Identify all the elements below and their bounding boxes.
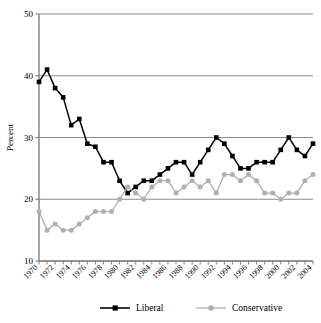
x-tick-label-1996: 1996	[231, 263, 249, 281]
datapoint-liberal-1990	[198, 160, 203, 165]
x-tick-label-1998: 1998	[247, 263, 265, 281]
datapoint-liberal-1972	[53, 86, 58, 91]
datapoint-liberal-1976	[85, 141, 90, 146]
x-tick-label-1978: 1978	[86, 263, 104, 281]
datapoint-conservative-1970	[37, 209, 42, 214]
series-line-liberal	[39, 70, 313, 194]
datapoint-liberal-1986	[166, 166, 171, 171]
datapoint-conservative-1991	[206, 178, 211, 183]
datapoint-liberal-1978	[101, 160, 106, 165]
datapoint-liberal-1985	[158, 172, 163, 177]
datapoint-conservative-1995	[238, 178, 243, 183]
x-tick-label-1992: 1992	[199, 263, 217, 281]
datapoint-liberal-1989	[190, 172, 195, 177]
datapoint-conservative-1983	[141, 197, 146, 202]
datapoint-conservative-1971	[45, 228, 50, 233]
legend-label-liberal: Liberal	[136, 303, 164, 313]
datapoint-liberal-1971	[45, 67, 50, 72]
datapoint-conservative-1974	[69, 228, 74, 233]
datapoint-conservative-2001	[286, 191, 291, 196]
datapoint-conservative-1992	[214, 191, 219, 196]
x-tick-label-2004: 2004	[296, 263, 314, 281]
datapoint-conservative-1999	[270, 191, 275, 196]
datapoint-liberal-1974	[69, 123, 74, 128]
datapoint-conservative-1993	[222, 172, 227, 177]
datapoint-liberal-1987	[174, 160, 179, 165]
datapoint-liberal-1980	[117, 178, 122, 183]
datapoint-liberal-1984	[150, 178, 155, 183]
x-tick-label-1976: 1976	[70, 263, 88, 281]
y-tick-label-40: 40	[24, 71, 34, 81]
y-tick-label-30: 30	[24, 133, 34, 143]
datapoint-liberal-2000	[278, 148, 283, 153]
datapoint-conservative-1985	[157, 178, 162, 183]
datapoint-liberal-1970	[37, 80, 42, 85]
x-tick-label-1974: 1974	[54, 263, 72, 281]
datapoint-conservative-1996	[246, 172, 251, 177]
datapoint-liberal-1997	[254, 160, 259, 165]
chart-figure: 1020304050Percent19701972197419761978198…	[0, 0, 321, 323]
datapoint-liberal-1982	[133, 185, 138, 190]
datapoint-conservative-2003	[302, 178, 307, 183]
datapoint-conservative-1978	[101, 209, 106, 214]
datapoint-conservative-1979	[109, 209, 114, 214]
datapoint-liberal-1983	[141, 178, 146, 183]
line-chart: 1020304050Percent19701972197419761978198…	[0, 0, 321, 323]
datapoint-conservative-1981	[125, 184, 130, 189]
y-tick-label-20: 20	[24, 194, 34, 204]
datapoint-conservative-1975	[77, 221, 82, 226]
x-tick-label-1988: 1988	[167, 263, 185, 281]
datapoint-conservative-1972	[53, 221, 58, 226]
datapoint-liberal-1998	[262, 160, 267, 165]
datapoint-liberal-1973	[61, 95, 66, 100]
datapoint-liberal-1981	[125, 191, 130, 196]
datapoint-conservative-1998	[262, 191, 267, 196]
datapoint-conservative-1982	[133, 191, 138, 196]
x-tick-label-1980: 1980	[102, 263, 120, 281]
datapoint-liberal-2003	[303, 154, 308, 159]
datapoint-conservative-2002	[294, 191, 299, 196]
datapoint-conservative-1990	[198, 184, 203, 189]
x-tick-label-1982: 1982	[118, 263, 136, 281]
datapoint-liberal-1992	[214, 135, 219, 140]
datapoint-conservative-1977	[93, 209, 98, 214]
datapoint-conservative-2004	[311, 172, 316, 177]
series-conservative	[37, 172, 316, 233]
datapoint-conservative-1986	[165, 178, 170, 183]
x-tick-label-2002: 2002	[280, 263, 298, 281]
y-tick-label-50: 50	[24, 9, 34, 19]
datapoint-liberal-1995	[238, 166, 243, 171]
datapoint-liberal-2001	[287, 135, 292, 140]
datapoint-conservative-1973	[61, 228, 66, 233]
datapoint-conservative-1976	[85, 215, 90, 220]
y-axis-title: Percent	[5, 124, 15, 151]
datapoint-conservative-1980	[117, 197, 122, 202]
x-tick-label-1994: 1994	[215, 263, 233, 281]
datapoint-conservative-1987	[174, 191, 179, 196]
x-tick-label-1990: 1990	[183, 263, 201, 281]
legend-marker-liberal	[113, 305, 118, 310]
datapoint-conservative-1997	[254, 178, 259, 183]
x-tick-label-1972: 1972	[38, 263, 56, 281]
datapoint-liberal-2002	[295, 148, 300, 153]
datapoint-liberal-1988	[182, 160, 187, 165]
legend-marker-conservative	[208, 305, 214, 311]
x-tick-label-2000: 2000	[264, 263, 282, 281]
datapoint-liberal-1999	[270, 160, 275, 165]
legend-label-conservative: Conservative	[232, 303, 282, 313]
datapoint-liberal-2004	[311, 141, 316, 146]
series-liberal	[37, 67, 316, 195]
datapoint-liberal-1993	[222, 141, 227, 146]
datapoint-liberal-1991	[206, 148, 211, 153]
x-tick-label-1986: 1986	[151, 263, 169, 281]
datapoint-conservative-1994	[230, 172, 235, 177]
datapoint-conservative-2000	[278, 197, 283, 202]
datapoint-conservative-1988	[182, 184, 187, 189]
datapoint-liberal-1996	[246, 166, 251, 171]
datapoint-liberal-1994	[230, 154, 235, 159]
datapoint-conservative-1989	[190, 178, 195, 183]
x-tick-label-1984: 1984	[135, 263, 153, 281]
datapoint-conservative-1984	[149, 184, 154, 189]
datapoint-liberal-1977	[93, 144, 98, 149]
datapoint-liberal-1979	[109, 160, 114, 165]
